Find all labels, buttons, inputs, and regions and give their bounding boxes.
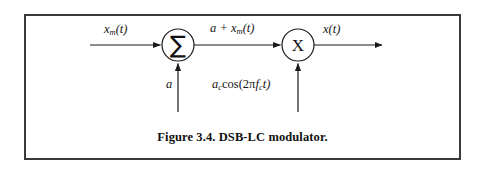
label-message-input: xm(t) bbox=[104, 23, 128, 37]
figure-caption: Figure 3.4. DSB-LC modulator. bbox=[24, 130, 461, 145]
label-carrier-arg-tail: t) bbox=[263, 77, 271, 91]
label-carrier-signal: accos(2πfct) bbox=[212, 78, 270, 92]
figure-container: ∑ X xm(t) a + xm(t) x(t) a accos(2πfct) … bbox=[0, 0, 481, 173]
label-summer-tail: (t) bbox=[243, 21, 255, 35]
label-summer-output: a + xm(t) bbox=[210, 22, 254, 36]
label-dc-offset-base: a bbox=[166, 77, 172, 91]
label-modulated-output: x(t) bbox=[323, 23, 340, 36]
summation-symbol: ∑ bbox=[162, 29, 194, 61]
label-summer-prefix: a + bbox=[210, 21, 231, 35]
label-carrier-arg-open: (2π bbox=[239, 77, 256, 91]
label-output-tail: (t) bbox=[329, 22, 341, 36]
label-dc-offset: a bbox=[166, 78, 172, 91]
label-message-tail: (t) bbox=[116, 22, 128, 36]
label-carrier-function: cos bbox=[222, 77, 239, 91]
multiplication-symbol: X bbox=[282, 29, 314, 61]
